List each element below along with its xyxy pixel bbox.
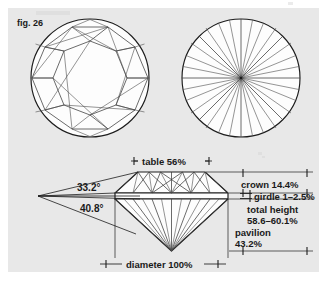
pavilion-label-line2: 43.2% xyxy=(235,238,262,249)
diamond-diagram-svg: fig. 26 xyxy=(0,0,333,285)
pavilion-view-bottom xyxy=(182,19,300,137)
table-dimension: table 56% xyxy=(131,156,212,167)
profile-view-side xyxy=(115,172,228,251)
figure-diamond-proportions: fig. 26 xyxy=(0,0,333,285)
girdle-dimension-label: girdle 1–2.5% xyxy=(254,191,315,202)
crown-angle-label: 33.2° xyxy=(77,182,100,193)
pavilion-angle-label: 40.8° xyxy=(80,203,103,214)
pavilion-label-line1: pavilion xyxy=(235,227,271,238)
pavilion-culet-point xyxy=(240,77,243,80)
total-height-label-line1: total height xyxy=(247,204,299,215)
table-dimension-label: table 56% xyxy=(142,156,186,167)
crown-dimension-label: crown 14.4% xyxy=(241,179,299,190)
crown-view-top: fig. 26 xyxy=(17,18,149,137)
diameter-dimension-label: diameter 100% xyxy=(126,259,193,270)
girdle-dimension: girdle 1–2.5% xyxy=(240,190,315,202)
total-height-label-line2: 58.6–60.1% xyxy=(247,215,298,226)
right-dimension-group: crown 14.4% girdle 1–2.5% total height 5… xyxy=(206,169,315,255)
total-height-dimension: total height 58.6–60.1% xyxy=(247,204,299,226)
figure-label: fig. 26 xyxy=(17,18,43,28)
